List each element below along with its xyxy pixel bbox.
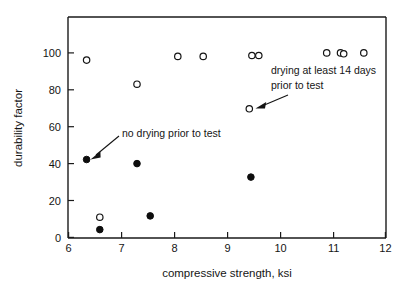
y-axis-title: durability factor xyxy=(12,89,24,167)
annotation-drying-label-line2: prior to test xyxy=(271,79,324,91)
data-point-filled xyxy=(134,160,141,167)
x-tick-label-12: 12 xyxy=(379,242,391,254)
x-axis-tick-labels: 6 7 8 9 10 11 12 xyxy=(66,242,392,254)
y-axis-ticks xyxy=(68,53,74,238)
x-tick-label-6: 6 xyxy=(66,242,72,254)
annotation-no-drying-arrow-head xyxy=(91,151,101,159)
annotation-drying-arrow-line xyxy=(262,95,288,106)
x-tick-label-10: 10 xyxy=(274,242,286,254)
y-tick-label-100: 100 xyxy=(43,47,61,59)
y-tick-label-20: 20 xyxy=(49,195,61,207)
data-point-open xyxy=(134,81,140,87)
x-axis-ticks xyxy=(69,232,386,238)
data-point-open xyxy=(324,50,330,56)
data-point-filled xyxy=(147,213,154,220)
y-axis-tick-labels: 0 20 40 60 80 100 xyxy=(43,47,61,244)
annotation-drying-arrow-head xyxy=(256,102,267,109)
x-tick-label-9: 9 xyxy=(225,242,231,254)
annotation-no-drying: no drying prior to test xyxy=(91,127,221,160)
data-point-open xyxy=(200,53,206,59)
series-no-drying xyxy=(83,156,254,233)
y-tick-label-60: 60 xyxy=(49,121,61,133)
chart-page: 0 20 40 60 80 100 6 7 8 9 10 11 12 xyxy=(0,0,401,290)
x-tick-label-8: 8 xyxy=(172,242,178,254)
data-point-open xyxy=(341,51,347,57)
data-point-filled xyxy=(97,226,104,233)
annotation-no-drying-label: no drying prior to test xyxy=(122,127,221,139)
data-point-open xyxy=(83,57,89,63)
x-tick-label-11: 11 xyxy=(328,242,339,254)
y-tick-label-40: 40 xyxy=(49,158,61,170)
data-point-open xyxy=(175,53,181,59)
scatter-plot: 0 20 40 60 80 100 6 7 8 9 10 11 12 xyxy=(0,0,401,290)
data-point-open xyxy=(97,214,103,220)
y-tick-label-80: 80 xyxy=(49,84,61,96)
data-point-open xyxy=(249,52,255,58)
data-point-open xyxy=(361,50,367,56)
annotation-drying-label-line1: drying at least 14 days xyxy=(271,64,376,76)
x-axis-title: compressive strength, ksi xyxy=(162,267,292,279)
data-point-open-annotated xyxy=(246,106,252,112)
annotation-drying-14-days: drying at least 14 days prior to test xyxy=(256,64,377,109)
data-point-filled-annotated xyxy=(83,156,90,163)
data-point-filled xyxy=(248,174,255,181)
data-point-open xyxy=(256,52,262,58)
y-tick-label-0: 0 xyxy=(55,232,61,244)
x-tick-label-7: 7 xyxy=(119,242,125,254)
